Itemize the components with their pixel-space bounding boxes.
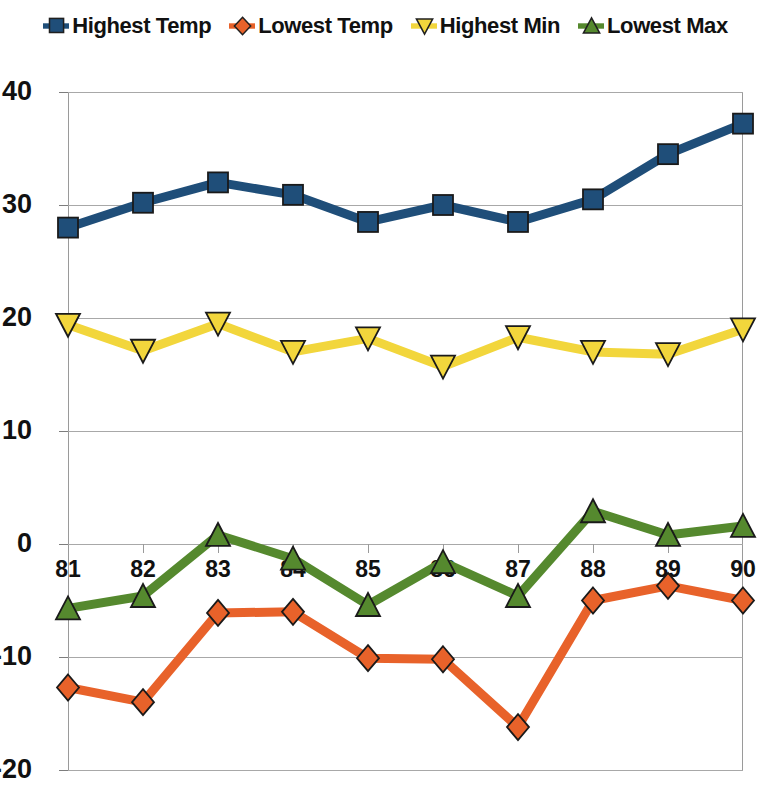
- gridline-y-10: [68, 431, 743, 432]
- x-tick-mark: [593, 544, 594, 553]
- x-tick-mark: [368, 544, 369, 553]
- legend-item-highest-temp[interactable]: Highest Temp: [43, 15, 211, 37]
- legend-triangle-down-marker-icon: [411, 15, 437, 37]
- x-tick-mark: [668, 544, 669, 553]
- legend-triangle-up-marker-icon: [578, 15, 604, 37]
- legend-item-lowest-temp[interactable]: Lowest Temp: [229, 15, 393, 37]
- y-axis-tick-label-text: -10: [0, 643, 32, 670]
- gridline-y-40: [68, 92, 743, 93]
- gridline-y-0: [68, 544, 743, 545]
- legend-item-label: Highest Min: [440, 15, 560, 37]
- legend-square-marker-icon: [43, 15, 69, 37]
- y-tick-mark: [59, 318, 68, 319]
- y-tick-mark: [59, 657, 68, 658]
- y-tick-mark: [59, 92, 68, 93]
- x-tick-mark: [143, 544, 144, 553]
- gridline-y--10: [68, 657, 743, 658]
- gridline-y--20: [68, 770, 743, 771]
- chart-root: Highest TempLowest TempHighest MinLowest…: [0, 0, 771, 785]
- y-axis-tick-label-text: 0: [17, 530, 32, 557]
- x-axis-tick-label: 84: [280, 558, 306, 581]
- y-axis-tick-label-text: 40: [2, 78, 32, 105]
- y-tick-mark: [59, 544, 68, 545]
- y-tick-mark: [59, 205, 68, 206]
- plot-area: [68, 92, 743, 770]
- gridline-y-30: [68, 205, 743, 206]
- x-tick-mark: [443, 544, 444, 553]
- legend-item-label: Highest Temp: [72, 15, 211, 37]
- y-axis-tick-label-text: -20: [0, 756, 32, 783]
- gridline-y-20: [68, 318, 743, 319]
- x-tick-mark: [293, 544, 294, 553]
- x-axis-tick-label: 90: [730, 558, 756, 581]
- x-tick-mark: [518, 544, 519, 553]
- legend-item-highest-min[interactable]: Highest Min: [411, 15, 560, 37]
- y-axis-tick-label-text: 10: [2, 417, 32, 444]
- legend-item-label: Lowest Max: [607, 15, 728, 37]
- x-axis-tick-label: 88: [580, 558, 606, 581]
- x-axis-tick-label: 82: [130, 558, 156, 581]
- x-axis-tick-label: 86: [430, 558, 456, 581]
- x-tick-mark: [218, 544, 219, 553]
- y-tick-mark: [59, 770, 68, 771]
- x-axis-tick-label: 81: [55, 558, 81, 581]
- x-axis-tick-label: 85: [355, 558, 381, 581]
- chart-legend: Highest TempLowest TempHighest MinLowest…: [0, 4, 771, 48]
- y-tick-mark: [59, 431, 68, 432]
- x-axis-tick-label: 83: [205, 558, 231, 581]
- x-axis-tick-label: 89: [655, 558, 681, 581]
- x-axis-tick-label: 87: [505, 558, 531, 581]
- legend-diamond-marker-icon: [229, 15, 255, 37]
- y-axis-tick-label-text: 20: [2, 304, 32, 331]
- legend-item-label: Lowest Temp: [258, 15, 393, 37]
- legend-item-lowest-max[interactable]: Lowest Max: [578, 15, 728, 37]
- y-axis-tick-label-text: 30: [2, 191, 32, 218]
